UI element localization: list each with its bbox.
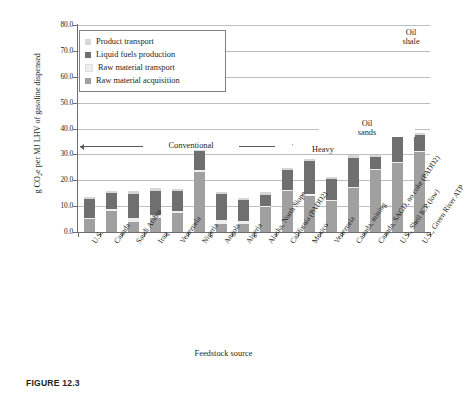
bar-segment: [128, 191, 139, 193]
bar-segment: [370, 155, 381, 157]
bar-segment: [238, 221, 249, 225]
bar-segment: [370, 169, 381, 170]
bar-segment: [414, 133, 425, 135]
y-tick-label: 30.0: [39, 150, 73, 157]
bar-8: [260, 25, 271, 232]
bar-segment: [128, 194, 139, 219]
legend-label: Product transport: [96, 37, 154, 46]
legend-item-1: Liquid fuels production: [85, 48, 220, 61]
bar-segment: [326, 177, 337, 179]
bar-segment: [172, 213, 183, 232]
bar-segment: [260, 206, 271, 207]
y-tick-label: 20.0: [39, 176, 73, 183]
bar-segment: [260, 195, 271, 207]
bar-segment: [106, 211, 117, 232]
y-tick-label: 60.0: [39, 73, 73, 80]
bar-segment: [172, 191, 183, 211]
bar-segment: [414, 135, 425, 151]
legend-label: Raw material acquisition: [96, 76, 180, 85]
bar-segment: [84, 219, 95, 232]
bar-segment: [194, 170, 205, 172]
bar-segment: [216, 194, 227, 220]
legend-swatch-icon: [85, 39, 91, 45]
bar-segment: [84, 218, 95, 220]
y-tick-label: 80.0: [39, 21, 73, 28]
bar-segment: [106, 191, 117, 193]
annotation-label: Oilshale: [363, 28, 459, 46]
bar-segment: [238, 200, 249, 220]
bar-segment: [304, 161, 315, 194]
x-tick: [78, 233, 79, 237]
bar-segment: [194, 151, 205, 170]
bar-segment: [150, 188, 161, 190]
y-tick-label: 10.0: [39, 202, 73, 209]
arrow-left-icon: [80, 144, 84, 150]
annotation-label: Conventional: [143, 141, 239, 150]
legend-label: Liquid fuels production: [96, 50, 175, 59]
bar-segment: [392, 162, 403, 164]
bar-segment: [106, 209, 117, 210]
bar-segment: [128, 218, 139, 221]
bar-segment: [260, 192, 271, 194]
y-tick-label: 0.0: [39, 228, 73, 235]
bar-segment: [172, 189, 183, 191]
bar-segment: [304, 159, 315, 161]
figure-caption: FIGURE 12.3: [26, 378, 80, 388]
bar-segment: [348, 187, 359, 188]
x-axis-title: Feedstock source: [0, 349, 447, 358]
legend-item-0: Product transport: [85, 35, 220, 48]
bar-segment: [84, 199, 95, 218]
y-tick-label: 70.0: [39, 47, 73, 54]
bar-segment: [106, 193, 117, 209]
y-tick-label: 40.0: [39, 125, 73, 132]
bar-segment: [392, 136, 403, 162]
chart-legend: Product transportLiquid fuels production…: [79, 30, 226, 92]
bar-segment: [326, 200, 337, 202]
bar-segment: [216, 192, 227, 194]
legend-label: Raw material transport: [98, 63, 175, 72]
bar-segment: [172, 211, 183, 214]
legend-swatch-icon: [85, 64, 93, 72]
bar-7: [238, 25, 249, 232]
bar-segment: [282, 168, 293, 170]
legend-swatch-icon: [85, 52, 91, 58]
y-tick-label: 50.0: [39, 99, 73, 106]
bar-segment: [348, 155, 359, 157]
bar-segment: [84, 197, 95, 199]
bar-segment: [238, 198, 249, 200]
legend-item-2: Raw material transport: [85, 61, 220, 74]
bar-segment: [370, 157, 381, 168]
bar-segment: [348, 158, 359, 187]
bar-segment: [414, 151, 425, 153]
bar-segment: [282, 190, 293, 191]
annotation-label: Heavy: [275, 145, 371, 154]
bar-segment: [282, 170, 293, 189]
legend-item-3: Raw material acquisition: [85, 74, 220, 87]
annotation-label: Oilsands: [319, 119, 415, 137]
legend-swatch-icon: [85, 78, 91, 84]
